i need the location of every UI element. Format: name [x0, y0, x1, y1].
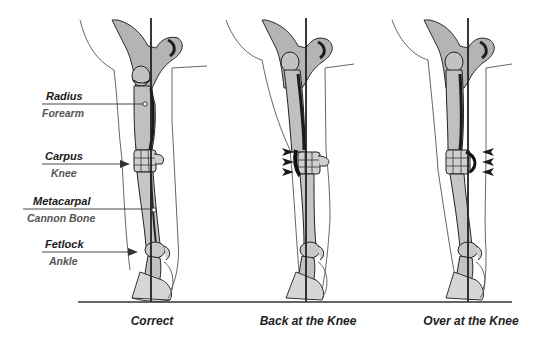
carpus-arrow-icon — [120, 160, 130, 168]
leg-correct — [80, 18, 207, 302]
label-cannon-bone: Cannon Bone — [27, 212, 95, 224]
label-knee: Knee — [51, 167, 77, 179]
label-forearm: Forearm — [42, 107, 84, 119]
conformation-diagram: Radius Forearm Carpus Knee Metacarpal Ca… — [0, 0, 540, 340]
caption-correct: Correct — [72, 314, 232, 328]
caption-over-at-knee: Over at the Knee — [391, 314, 540, 328]
leg-back-at-knee — [226, 18, 354, 302]
metacarpal-pointer-dot — [152, 208, 156, 212]
label-fetlock: Fetlock — [45, 238, 84, 250]
label-metacarpal: Metacarpal — [33, 195, 90, 207]
radius-pointer-dot — [143, 102, 147, 106]
label-radius: Radius — [46, 90, 83, 102]
caption-back-at-knee: Back at the Knee — [228, 314, 388, 328]
label-ankle: Ankle — [49, 255, 78, 267]
knee-indicator-chevrons — [282, 148, 294, 176]
knee-indicator-chevrons — [482, 148, 494, 176]
fetlock-arrow-icon — [128, 248, 138, 256]
leg-over-at-knee — [392, 18, 512, 302]
label-carpus: Carpus — [45, 150, 83, 162]
leg-illustrations — [0, 0, 540, 340]
